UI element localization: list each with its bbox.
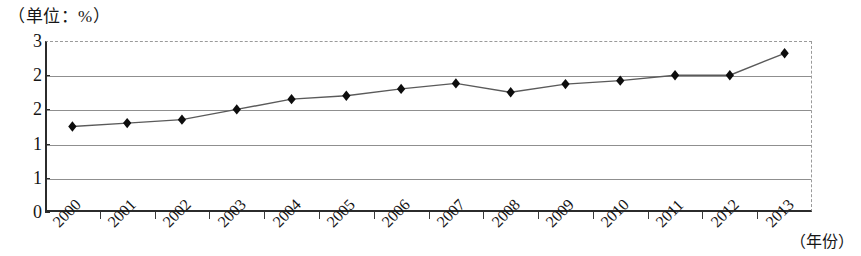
gridline bbox=[47, 76, 811, 77]
x-axis-tick-mark bbox=[483, 212, 484, 219]
x-axis-tick-mark bbox=[264, 212, 265, 219]
x-axis-name: （年份） bbox=[790, 228, 854, 252]
x-axis-tick-mark bbox=[757, 212, 758, 219]
y-axis-tick-mark bbox=[45, 109, 50, 110]
plot-area bbox=[45, 41, 812, 212]
y-axis-tick-label: 3 bbox=[12, 32, 42, 50]
y-axis-tick-mark bbox=[45, 178, 50, 179]
gridline bbox=[47, 145, 811, 146]
gridline bbox=[47, 110, 811, 111]
y-axis-tick-label: 2 bbox=[12, 100, 42, 118]
x-axis-tick-mark bbox=[538, 212, 539, 219]
x-axis-tick-mark bbox=[702, 212, 703, 219]
x-axis-tick-mark bbox=[100, 212, 101, 219]
line-chart-figure: （单位：%） 322110 20002001200220032004200520… bbox=[0, 0, 861, 256]
unit-caption: （单位：%） bbox=[8, 2, 110, 27]
x-axis-tick-mark bbox=[593, 212, 594, 219]
x-axis-tick-mark bbox=[648, 212, 649, 219]
y-axis-tick-label: 1 bbox=[12, 169, 42, 187]
x-axis-tick-mark bbox=[209, 212, 210, 219]
x-axis-tick-mark bbox=[429, 212, 430, 219]
y-axis-tick-mark bbox=[45, 212, 50, 213]
y-axis-tick-label: 1 bbox=[12, 135, 42, 153]
x-axis-tick-mark bbox=[374, 212, 375, 219]
y-axis-tick-mark bbox=[45, 75, 50, 76]
x-axis-tick-mark bbox=[319, 212, 320, 219]
x-axis-tick-mark bbox=[155, 212, 156, 219]
y-axis-tick-mark bbox=[45, 144, 50, 145]
gridline bbox=[47, 179, 811, 180]
y-axis-tick-label: 0 bbox=[12, 203, 42, 221]
y-axis-tick-label: 2 bbox=[12, 66, 42, 84]
